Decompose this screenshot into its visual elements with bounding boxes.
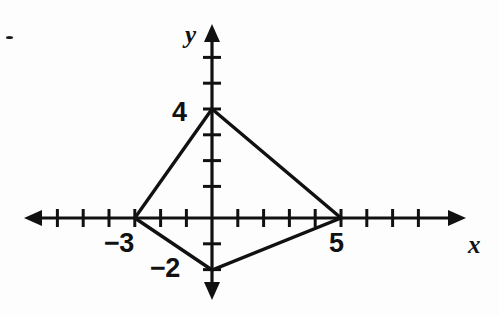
y-tick-label-negative-2: −2: [150, 255, 180, 282]
quadrilateral-outline: [135, 109, 341, 270]
x-axis-label: x: [468, 232, 481, 257]
x-tick-label-negative-3: −3: [104, 230, 134, 257]
x-tick-label-5: 5: [329, 230, 344, 257]
y-axis-up-arrow-icon: [204, 24, 220, 42]
x-axis-right-arrow-icon: [448, 210, 466, 226]
y-axis: [203, 24, 221, 300]
x-axis-left-arrow-icon: [24, 210, 42, 226]
quadrilateral-shape: [135, 109, 341, 270]
y-tick-label-4: 4: [172, 99, 187, 126]
y-axis-label: y: [185, 22, 196, 47]
coordinate-plane-graphic: [0, 0, 499, 316]
x-axis: [24, 209, 466, 227]
figure-root: y x 4 −3 5 −2: [0, 0, 499, 316]
y-axis-down-arrow-icon: [204, 282, 220, 300]
